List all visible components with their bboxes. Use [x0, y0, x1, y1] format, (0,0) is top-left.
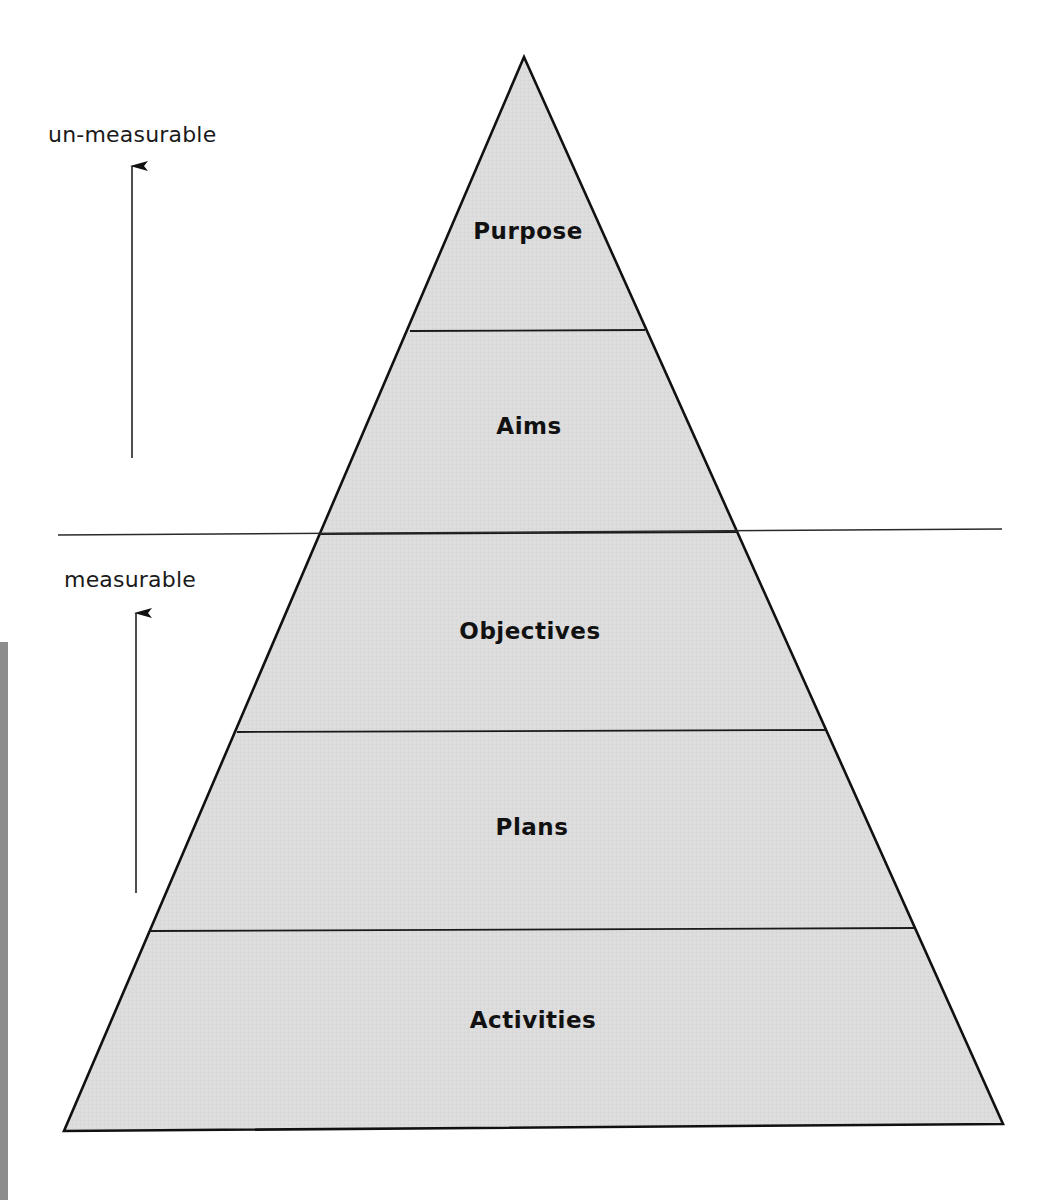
pyramid-diagram: un-measurable measurable Purpose Aims Ob…	[0, 0, 1049, 1200]
un-measurable-label: un-measurable	[48, 124, 216, 146]
layer-label-objectives: Objectives	[459, 620, 600, 643]
measurable-label: measurable	[64, 569, 196, 591]
layer-label-purpose: Purpose	[473, 220, 583, 243]
layer-label-plans: Plans	[496, 816, 569, 839]
layer-label-activities: Activities	[470, 1009, 596, 1032]
layer-label-aims: Aims	[496, 415, 561, 438]
layer-divider-purpose-aims	[410, 330, 645, 331]
